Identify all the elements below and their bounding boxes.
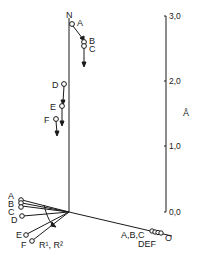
displacement-diagram: N A B C D E F A B C D E F R¹, R² A,B,C D… [0,0,197,263]
scale-unit-label: Å [183,108,189,118]
point-f [54,117,59,122]
point-d [62,82,67,87]
label-d-fan: D [11,215,18,225]
label-def-right: DEF [138,239,157,249]
point-n-a [70,22,75,27]
label-n: N [66,10,73,20]
fan-point-e [24,233,29,238]
label-e-mid: E [50,102,56,112]
point-e [60,104,65,109]
label-e-fan: E [16,230,22,240]
label-o: O [165,233,172,243]
fan-point-f [30,239,35,244]
label-r1-r2: R¹, R² [39,240,63,250]
label-f-fan: F [21,240,27,250]
point-c [82,44,87,49]
scale-tick-0: 0,0 [169,207,181,217]
label-a-top: A [77,18,83,28]
scale-tick-1: 1,0 [169,141,181,151]
scale-tick-3: 3,0 [169,11,181,21]
fan-point-c [19,205,24,210]
label-c-top: C [89,44,96,54]
label-d-mid: D [52,80,59,90]
label-f-mid: F [44,115,50,125]
scale-tick-2: 2,0 [169,76,181,86]
fan-point-d [20,214,25,219]
